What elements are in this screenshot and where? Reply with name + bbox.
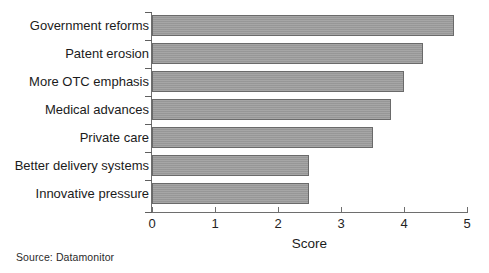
bar-medical-advances [152, 99, 391, 120]
bar-government-reforms [152, 15, 454, 36]
category-axis-tick [145, 12, 152, 13]
value-axis-tick [278, 207, 279, 213]
bar-chart-figure: 0 1 2 3 4 5 Government reforms Patent er… [0, 0, 489, 273]
category-axis-tick [145, 152, 152, 153]
category-label-more-otc-emphasis: More OTC emphasis [0, 75, 149, 89]
value-axis-tick-label: 1 [200, 216, 230, 231]
category-axis-tick [145, 180, 152, 181]
category-axis-tick [145, 212, 152, 213]
category-label-private-care: Private care [0, 131, 149, 145]
value-axis-title: Score [152, 236, 467, 251]
category-axis-tick [145, 40, 152, 41]
bar-more-otc-emphasis [152, 71, 404, 92]
value-axis-tick-label: 0 [137, 216, 167, 231]
bar-patent-erosion [152, 43, 423, 64]
value-axis-tick [215, 207, 216, 213]
bar-better-delivery-systems [152, 155, 309, 176]
bar-private-care [152, 127, 373, 148]
source-note: Source: Datamonitor [16, 251, 114, 263]
value-axis-tick-label: 5 [452, 216, 482, 231]
category-label-patent-erosion: Patent erosion [0, 47, 149, 61]
value-axis-tick-label: 4 [389, 216, 419, 231]
value-axis-tick-label: 3 [326, 216, 356, 231]
value-axis-tick [152, 207, 153, 213]
plot-area [152, 12, 467, 212]
category-axis-tick [145, 68, 152, 69]
category-axis-tick [145, 124, 152, 125]
bar-innovative-pressure [152, 183, 309, 204]
value-axis-tick [467, 207, 468, 213]
value-axis-tick [341, 207, 342, 213]
category-label-innovative-pressure: Innovative pressure [0, 187, 149, 201]
category-label-government-reforms: Government reforms [0, 19, 149, 33]
value-axis-tick-label: 2 [263, 216, 293, 231]
category-label-better-delivery-systems: Better delivery systems [0, 159, 149, 173]
category-axis-tick [145, 96, 152, 97]
value-axis-line [151, 212, 468, 213]
category-label-medical-advances: Medical advances [0, 103, 149, 117]
category-axis-line [151, 12, 152, 213]
value-axis-tick [404, 207, 405, 213]
